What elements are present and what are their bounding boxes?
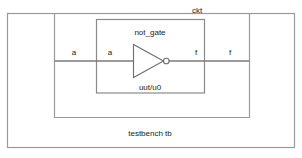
- diagram-labels-layer: ckt testbench tb not_gate uut/u0 a a f f: [0, 0, 302, 158]
- instance-path-label: uut/u0: [139, 83, 162, 92]
- not-gate-label: not_gate: [134, 28, 166, 37]
- port-label-tb-input-a: a: [72, 48, 77, 57]
- port-label-ckt-input-a: a: [108, 48, 113, 57]
- port-label-ckt-output-f: f: [195, 48, 198, 57]
- schematic-diagram: ckt testbench tb not_gate uut/u0 a a f f: [0, 0, 302, 158]
- port-label-tb-output-f: f: [229, 48, 232, 57]
- ckt-block-label: ckt: [192, 6, 203, 15]
- testbench-label: testbench tb: [128, 129, 172, 138]
